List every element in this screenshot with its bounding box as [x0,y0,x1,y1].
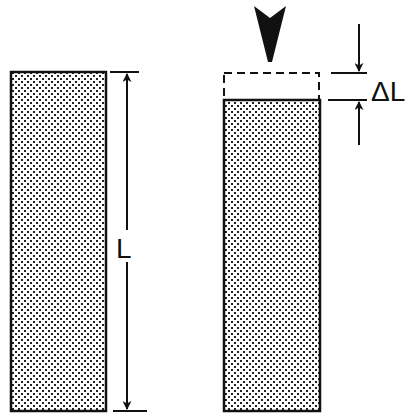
length-label: L [116,233,132,264]
compressed-column-body [224,100,320,411]
original-outline-dashed [224,73,319,100]
delta-length-label: ΔL [371,76,405,107]
original-column-body [11,72,106,411]
original-column [11,72,106,411]
diagram-canvas: L ΔL [0,0,419,419]
delta-length-dimension: ΔL [328,24,405,145]
diagram-svg: L ΔL [0,0,419,419]
length-dimension: L [110,72,147,411]
load-arrow-icon [254,6,286,62]
